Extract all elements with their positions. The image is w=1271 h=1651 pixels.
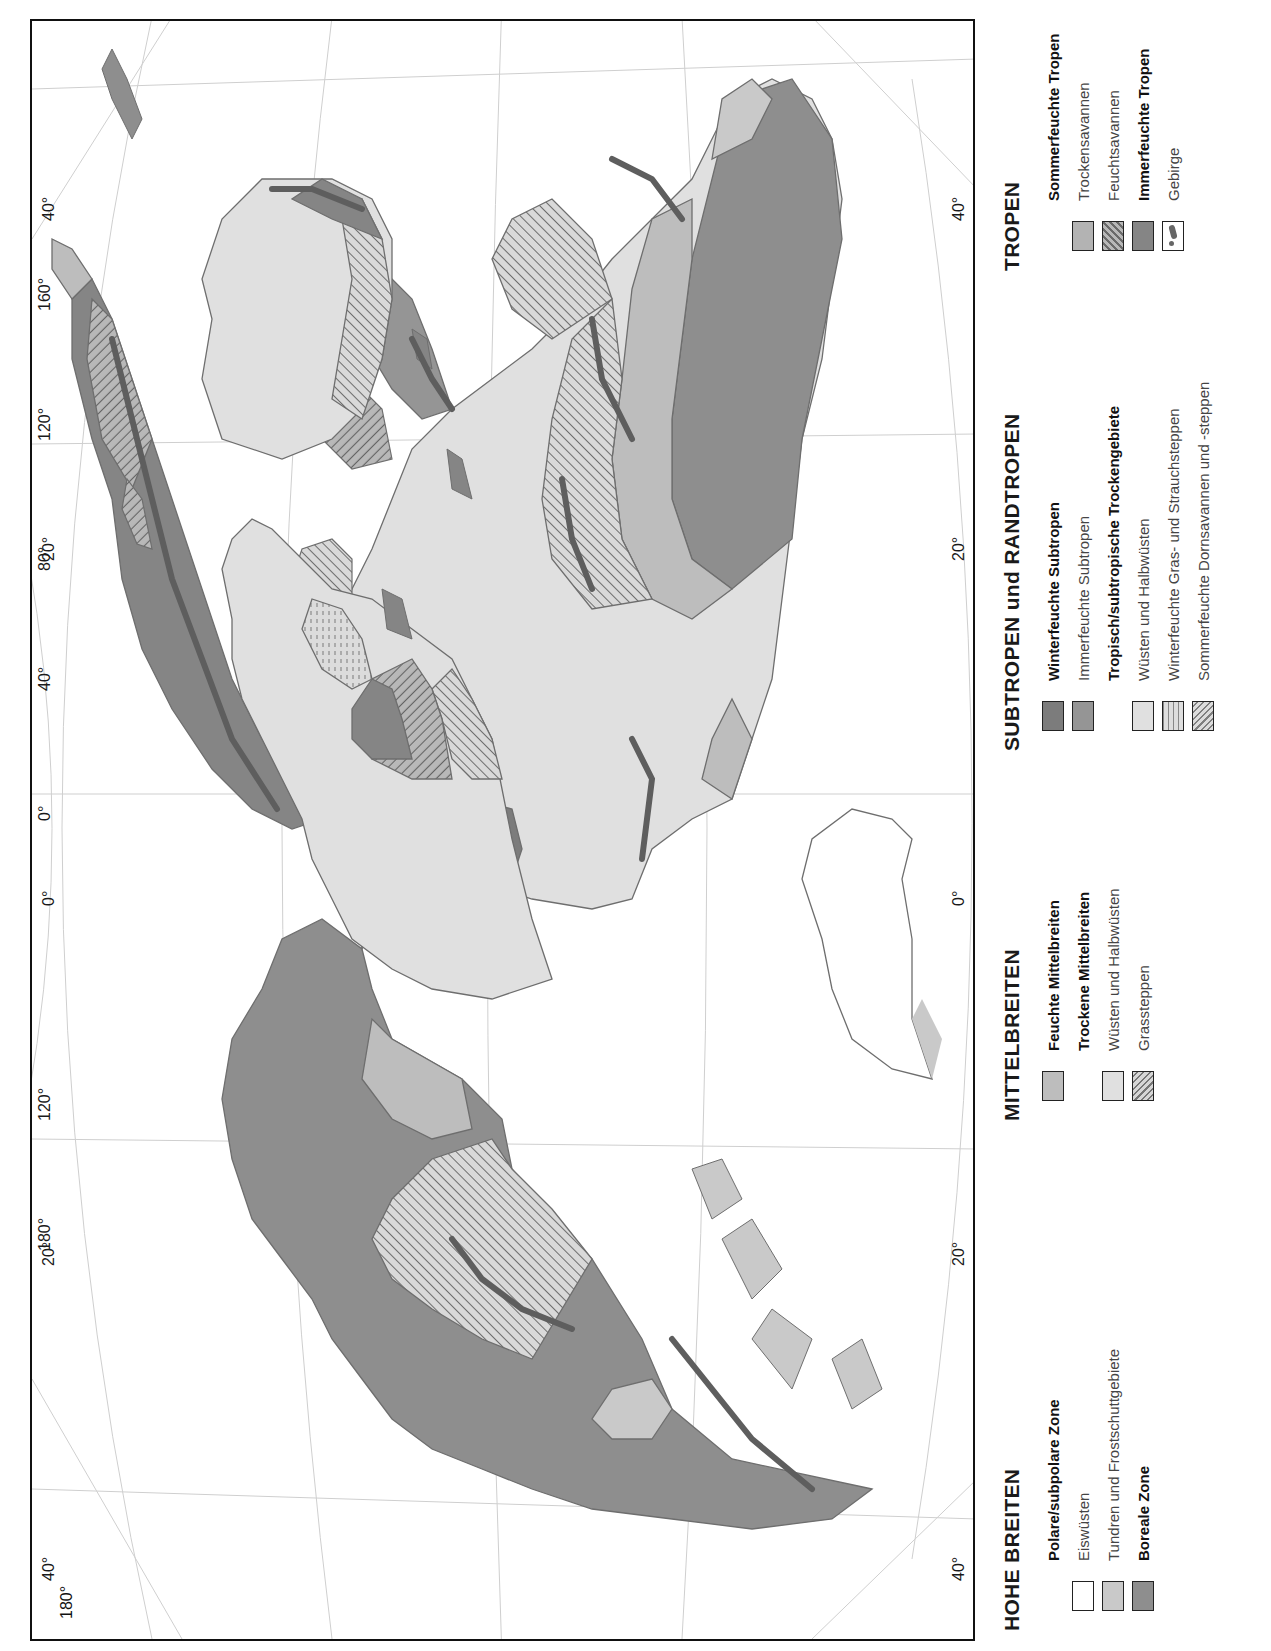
swatch-icon <box>1042 1071 1064 1101</box>
legend-item-immerfeuchte-tropen: Immerfeuchte Tropen <box>1128 33 1158 251</box>
legend-item-winterfeuchte-steppen: Winterfeuchte Gras- und Strauchsteppen <box>1158 382 1188 731</box>
swatch-icon <box>1072 701 1094 731</box>
legend-tropen: TROPEN Sommerfeuchte Tropen Trockensavan… <box>1000 33 1188 271</box>
legend-subtropen: SUBTROPEN und RANDTROPEN Winterfeuchte S… <box>1000 382 1218 751</box>
greenland <box>802 809 932 1079</box>
swatch-icon <box>1192 701 1214 731</box>
longitude-label: 0° <box>36 806 54 821</box>
legend: HOHE BREITEN Polare/subpolare Zone Eiswü… <box>1000 19 1260 1641</box>
swatch-icon <box>1132 221 1154 251</box>
legend-item-trockensavannen: Trockensavannen <box>1068 33 1098 251</box>
swatch-icon <box>1132 701 1154 731</box>
legend-hohe-breiten: HOHE BREITEN Polare/subpolare Zone Eiswü… <box>1000 1349 1158 1631</box>
map-canvas: 180° 40° 20° 0° 20° 40° 40° 20° 0° 20° 4… <box>0 0 1271 1651</box>
legend-item-dornsavannen: Sommerfeuchte Dornsavannen und -steppen <box>1188 382 1218 731</box>
swatch-icon <box>1072 221 1094 251</box>
world-map: 180° <box>30 19 975 1641</box>
legend-item-grassteppen: Grassteppen <box>1128 888 1158 1101</box>
meridian-labels-bottom: 40° 20° 0° 20° 40° <box>950 19 970 1641</box>
north-america <box>222 919 872 1529</box>
legend-mittelbreiten: MITTELBREITEN Feuchte Mittelbreiten Troc… <box>1000 888 1158 1121</box>
legend-item-winterfeuchte-subtropen: Winterfeuchte Subtropen <box>1038 382 1068 731</box>
longitude-label: 80° <box>36 547 54 571</box>
parallel-label: 40° <box>950 1557 968 1581</box>
legend-item-feuchtsavannen: Feuchtsavannen <box>1098 33 1128 251</box>
arctic-islands <box>692 1159 882 1409</box>
swatch-icon <box>1102 1071 1124 1101</box>
legend-group: Tropisch/subtropische Trockengebiete <box>1098 382 1128 731</box>
legend-item-wuesten-mb: Wüsten und Halbwüsten <box>1098 888 1128 1101</box>
legend-section-title: MITTELBREITEN <box>1000 888 1024 1121</box>
legend-section-title: HOHE BREITEN <box>1000 1349 1024 1631</box>
swatch-icon <box>1102 1581 1124 1611</box>
longitude-label: 120° <box>36 1088 54 1121</box>
legend-item-eiswuesten: Eiswüsten <box>1068 1349 1098 1611</box>
parallel-label: 20° <box>950 537 968 561</box>
parallel-label: 0° <box>950 891 968 906</box>
degree-labels: 180° <box>58 1586 75 1619</box>
legend-item-gebirge: Gebirge <box>1158 33 1188 251</box>
longitude-label: 180° <box>58 1586 75 1619</box>
longitude-label: 40° <box>36 667 54 691</box>
longitude-label: 180° <box>36 1218 54 1251</box>
legend-item-wuesten-st: Wüsten und Halbwüsten <box>1128 382 1158 731</box>
legend-section-title: TROPEN <box>1000 33 1024 271</box>
legend-item-boreale-zone: Boreale Zone <box>1128 1349 1158 1611</box>
longitude-labels: 180° 120° 0° 40° 80° 120° 160° <box>36 19 56 1641</box>
swatch-icon <box>1162 701 1184 731</box>
legend-group: Trockene Mittelbreiten <box>1068 888 1098 1101</box>
legend-group: Polare/subpolare Zone <box>1038 1349 1068 1611</box>
longitude-label: 160° <box>36 278 54 311</box>
map-graphic: 180° <box>32 19 975 1639</box>
legend-group: Sommerfeuchte Tropen <box>1038 33 1068 251</box>
swatch-icon <box>1132 1071 1154 1101</box>
swatch-icon <box>1042 701 1064 731</box>
legend-item-immerfeuchte-subtropen: Immerfeuchte Subtropen <box>1068 382 1098 731</box>
legend-section-title: SUBTROPEN und RANDTROPEN <box>1000 382 1024 751</box>
longitude-label: 120° <box>36 408 54 441</box>
swatch-icon <box>1102 221 1124 251</box>
parallel-label: 20° <box>950 1242 968 1266</box>
legend-item-tundren: Tundren und Frostschuttgebiete <box>1098 1349 1128 1611</box>
mountain-icon <box>1162 221 1184 251</box>
swatch-icon <box>1132 1581 1154 1611</box>
swatch-icon <box>1072 1581 1094 1611</box>
legend-item-feuchte-mittelbreiten: Feuchte Mittelbreiten <box>1038 888 1068 1101</box>
parallel-label: 40° <box>950 197 968 221</box>
